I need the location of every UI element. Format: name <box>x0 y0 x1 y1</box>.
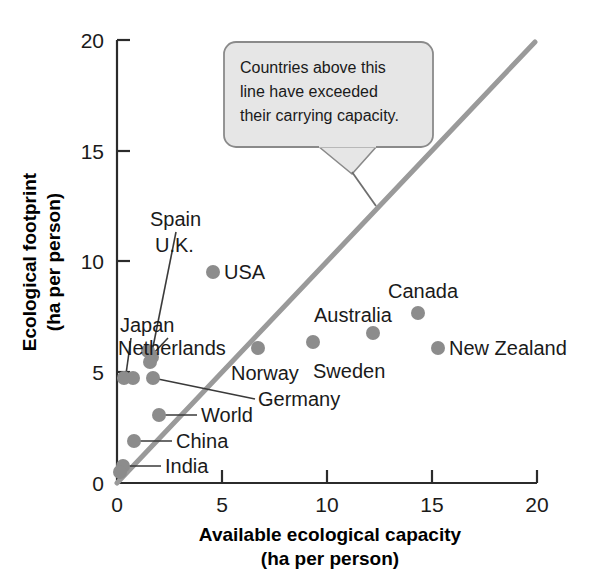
point-sweden[interactable] <box>306 335 320 349</box>
point-new-zealand[interactable] <box>431 341 445 355</box>
y-axis-title: Ecological footprint (ha per person) <box>19 172 64 351</box>
chart-canvas: 20 15 10 5 0 0 5 10 15 20 Ecological foo… <box>0 0 589 574</box>
point-australia[interactable] <box>366 326 380 340</box>
label-sweden: Sweden <box>313 360 385 382</box>
y-tick-label-5: 5 <box>92 361 104 384</box>
label-india: India <box>165 455 209 477</box>
label-australia: Australia <box>314 304 393 326</box>
y-axis-title-units: (ha per person) <box>43 193 64 331</box>
label-canada: Canada <box>388 280 459 302</box>
label-norway: Norway <box>231 362 299 384</box>
label-usa: USA <box>224 261 266 283</box>
y-tick-label-20: 20 <box>81 29 104 52</box>
label-world: World <box>201 404 253 426</box>
y-tick-label-10: 10 <box>81 250 104 273</box>
callout-tail <box>318 146 377 174</box>
label-china: China <box>176 430 229 452</box>
x-tick-label-0: 0 <box>111 493 123 516</box>
y-tick-label-15: 15 <box>81 140 104 163</box>
label-spain: Spain <box>150 208 201 230</box>
x-tick-label-20: 20 <box>525 493 548 516</box>
callout-line-1: Countries above this <box>240 59 386 76</box>
x-tick-label-10: 10 <box>315 493 338 516</box>
x-tick-label-5: 5 <box>216 493 228 516</box>
point-world[interactable] <box>152 408 166 422</box>
callout-pointer-line <box>352 172 376 206</box>
x-tick-labels: 0 5 10 15 20 <box>111 493 549 516</box>
x-tick-label-15: 15 <box>420 493 443 516</box>
point-china[interactable] <box>127 434 141 448</box>
label-new-zealand: New Zealand <box>449 337 567 359</box>
point-canada[interactable] <box>411 306 425 320</box>
label-netherlands: Netherlands <box>118 337 226 359</box>
x-axis-title-main: Available ecological capacity <box>199 524 462 545</box>
y-axis-title-main: Ecological footprint <box>19 172 40 351</box>
point-usa[interactable] <box>206 265 220 279</box>
ecological-footprint-chart: 20 15 10 5 0 0 5 10 15 20 Ecological foo… <box>0 0 589 574</box>
point-norway[interactable] <box>251 341 265 355</box>
label-uk: U.K. <box>155 234 194 256</box>
label-germany: Germany <box>258 388 340 410</box>
callout-line-3: their carrying capacity. <box>240 107 399 124</box>
point-india-b[interactable] <box>113 465 127 479</box>
x-axis-title-units: (ha per person) <box>261 548 399 569</box>
point-germany[interactable] <box>146 371 160 385</box>
callout-line-2: line have exceeded <box>240 83 378 100</box>
x-axis-title: Available ecological capacity (ha per pe… <box>199 524 462 569</box>
y-tick-label-0: 0 <box>92 472 104 495</box>
point-japan-b[interactable] <box>126 371 140 385</box>
y-tick-labels: 20 15 10 5 0 <box>81 29 104 495</box>
label-japan: Japan <box>120 314 175 336</box>
